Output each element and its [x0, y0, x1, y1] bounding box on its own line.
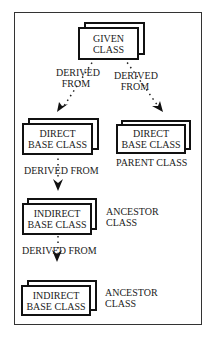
node-given-line2: CLASS — [93, 44, 124, 55]
node-given-line1: GIVEN — [93, 33, 124, 44]
edge-label-mid1: DERIVED FROM — [24, 165, 99, 176]
annotation-ancestor-class-1: ANCESTOR CLASS — [106, 206, 159, 228]
arrowhead-mid1 — [53, 179, 63, 191]
annotation-ancestor-class-2: ANCESTOR CLASS — [105, 287, 158, 309]
edge-label-mid2: DERIVED FROM — [22, 245, 97, 256]
annotation-parent-class: PARENT CLASS — [116, 157, 187, 168]
arrowhead-left — [57, 102, 68, 112]
edge-label-right: DERIVED FROM — [114, 70, 156, 92]
arrowhead-right — [152, 101, 163, 112]
edge-label-left: DERIVED FROM — [56, 67, 96, 89]
